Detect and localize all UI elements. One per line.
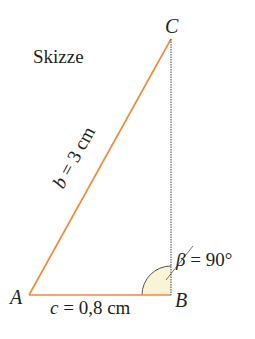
side-c-label: c = 0,8 cm <box>50 298 130 317</box>
vertex-label-a: A <box>10 287 22 307</box>
angle-beta-label: β = 90° <box>176 250 232 269</box>
vertex-label-c: C <box>165 16 178 36</box>
side-c-value: = 0,8 cm <box>58 297 130 318</box>
angle-beta-value: = 90° <box>185 249 232 270</box>
sketch-title: Skizze <box>33 47 84 66</box>
side-b-line <box>29 39 171 295</box>
vertex-label-b: B <box>175 290 187 310</box>
